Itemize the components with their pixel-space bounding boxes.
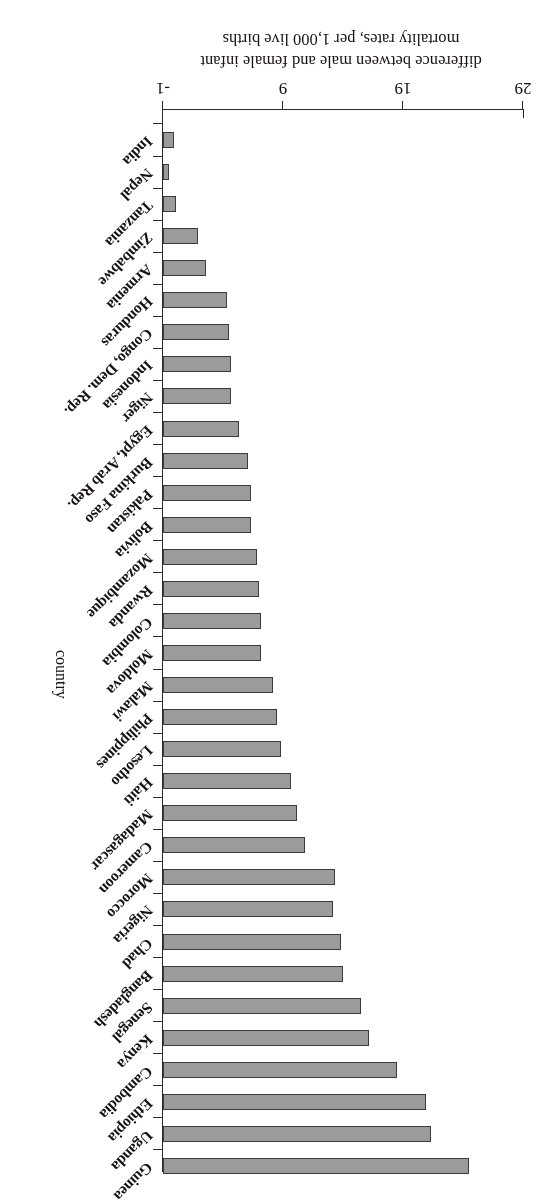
bar xyxy=(163,677,273,693)
bar xyxy=(163,966,343,982)
category-tick xyxy=(153,733,162,734)
category-tick xyxy=(153,636,162,637)
bar xyxy=(163,741,281,757)
bar xyxy=(163,164,169,180)
bar xyxy=(163,1094,426,1110)
category-tick xyxy=(153,797,162,798)
value-axis-title: difference between male and female infan… xyxy=(176,28,506,72)
category-tick xyxy=(153,156,162,157)
category-tick xyxy=(153,989,162,990)
bar xyxy=(163,292,227,308)
bar xyxy=(163,709,277,725)
category-tick xyxy=(153,284,162,285)
bar xyxy=(163,517,251,533)
bar xyxy=(163,421,239,437)
value-tick xyxy=(282,101,283,110)
bar xyxy=(163,485,251,501)
category-tick xyxy=(153,123,162,124)
bar xyxy=(163,453,248,469)
bar xyxy=(163,132,174,148)
bar xyxy=(163,1158,469,1174)
category-tick-label: Nepal xyxy=(117,165,156,204)
bar xyxy=(163,228,198,244)
bar xyxy=(163,549,257,565)
category-tick xyxy=(153,444,162,445)
category-tick xyxy=(153,1053,162,1054)
category-tick xyxy=(153,957,162,958)
bar xyxy=(163,645,261,661)
bar xyxy=(163,902,333,918)
value-tick xyxy=(162,101,163,110)
category-tick-label: India xyxy=(119,133,156,170)
category-tick xyxy=(153,829,162,830)
value-tick xyxy=(522,101,523,110)
category-tick xyxy=(153,1149,162,1150)
value-tick-label: 9 xyxy=(263,78,303,98)
category-tick xyxy=(153,188,162,189)
category-tick xyxy=(153,348,162,349)
value-tick xyxy=(402,101,403,110)
category-tick xyxy=(153,540,162,541)
category-tick xyxy=(153,572,162,573)
bar xyxy=(163,805,297,821)
bar xyxy=(163,934,341,950)
category-tick xyxy=(153,765,162,766)
category-tick xyxy=(153,380,162,381)
bar xyxy=(163,773,291,789)
category-tick xyxy=(153,476,162,477)
bar xyxy=(163,869,335,885)
bar xyxy=(163,998,361,1014)
value-axis-left-cap xyxy=(523,109,524,118)
category-tick xyxy=(153,220,162,221)
category-tick xyxy=(153,252,162,253)
bar xyxy=(163,1126,431,1142)
value-tick-label: 29 xyxy=(503,78,542,98)
bar xyxy=(163,260,206,276)
category-tick xyxy=(153,1085,162,1086)
bar xyxy=(163,1062,397,1078)
bar xyxy=(163,196,176,212)
category-tick xyxy=(153,604,162,605)
category-tick xyxy=(153,893,162,894)
category-tick xyxy=(153,316,162,317)
category-tick xyxy=(153,701,162,702)
bar xyxy=(163,613,261,629)
category-axis-title: country xyxy=(52,650,70,699)
value-tick-label: -1 xyxy=(143,78,183,98)
category-tick xyxy=(153,925,162,926)
bar xyxy=(163,356,231,372)
category-tick xyxy=(153,669,162,670)
bar xyxy=(163,581,259,597)
category-tick xyxy=(153,861,162,862)
bar xyxy=(163,324,229,340)
category-tick xyxy=(153,412,162,413)
bar xyxy=(163,389,231,405)
value-tick-label: 19 xyxy=(383,78,423,98)
bar xyxy=(163,837,305,853)
value-axis-line xyxy=(162,109,524,110)
category-tick xyxy=(153,508,162,509)
category-tick xyxy=(153,1117,162,1118)
category-tick xyxy=(153,1021,162,1022)
bar xyxy=(163,1030,369,1046)
